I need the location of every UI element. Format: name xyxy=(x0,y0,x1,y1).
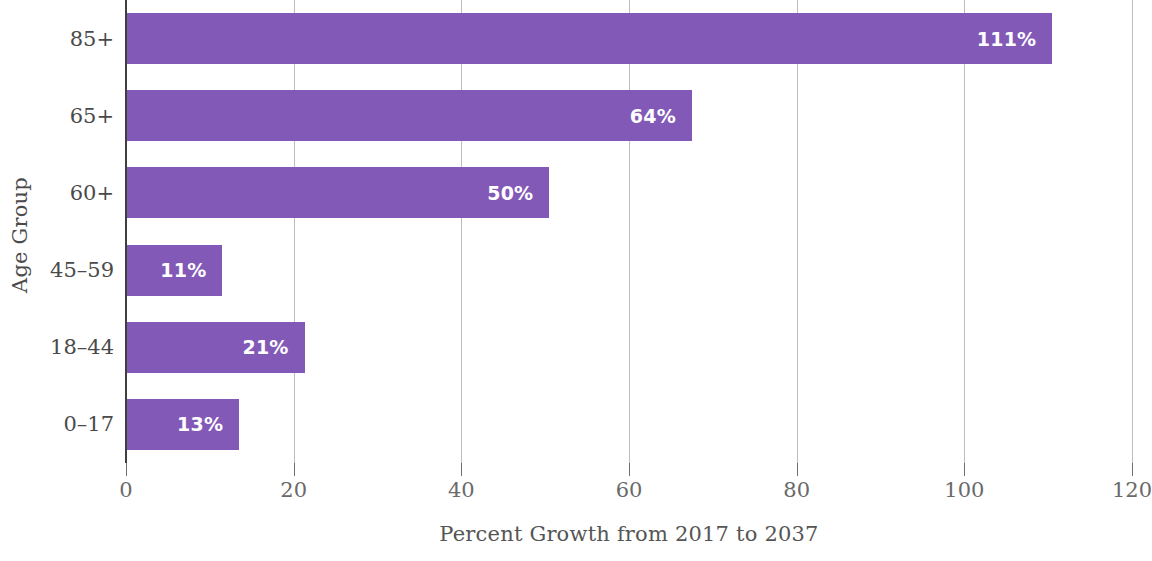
bar[interactable]: 13% xyxy=(126,399,239,450)
y-axis-title: Age Group xyxy=(0,0,40,470)
y-axis-line xyxy=(125,0,127,463)
bar[interactable]: 50% xyxy=(126,167,549,218)
x-axis-tick-label: 60 xyxy=(589,478,669,502)
x-axis-tick-mark xyxy=(461,463,462,476)
bar-value-label: 50% xyxy=(487,182,549,204)
bar-row: 50% xyxy=(126,167,1132,218)
bar[interactable]: 64% xyxy=(126,90,692,141)
bar-value-label: 111% xyxy=(977,28,1053,50)
y-axis-tick-label: 0–17 xyxy=(63,399,114,450)
x-axis-tick-label: 80 xyxy=(757,478,837,502)
bar[interactable]: 21% xyxy=(126,322,305,373)
y-axis-tick-label: 65+ xyxy=(70,90,114,141)
bar[interactable]: 111% xyxy=(126,13,1052,64)
y-axis-tick-label: 85+ xyxy=(70,13,114,64)
bar-row: 11% xyxy=(126,245,1132,296)
bar-value-label: 13% xyxy=(177,413,239,435)
y-axis-tick-label: 45–59 xyxy=(50,245,114,296)
bar-value-label: 64% xyxy=(630,105,692,127)
gridline xyxy=(629,0,630,463)
x-axis-tick-mark xyxy=(294,463,295,476)
bar-value-label: 11% xyxy=(160,259,222,281)
y-axis-tick-label: 60+ xyxy=(70,167,114,218)
x-axis-tick-label: 120 xyxy=(1092,478,1152,502)
x-axis-tick-mark xyxy=(126,463,127,476)
x-axis-tick-mark xyxy=(1132,463,1133,476)
x-axis-tick-mark xyxy=(964,463,965,476)
x-axis-tick-mark xyxy=(629,463,630,476)
plot-area: 111%64%50%11%21%13% xyxy=(126,0,1132,463)
bar-value-label: 21% xyxy=(242,336,304,358)
y-axis-title-text: Age Group xyxy=(8,177,32,293)
bar-row: 64% xyxy=(126,90,1132,141)
bar-chart: Age Group 85+65+60+45–5918–440–17 111%64… xyxy=(0,0,1152,561)
bar-row: 21% xyxy=(126,322,1132,373)
x-axis-tick-label: 0 xyxy=(86,478,166,502)
x-axis-tick-label: 40 xyxy=(421,478,501,502)
bar-row: 111% xyxy=(126,13,1132,64)
gridline xyxy=(797,0,798,463)
gridline xyxy=(294,0,295,463)
gridline xyxy=(461,0,462,463)
x-axis-title: Percent Growth from 2017 to 2037 xyxy=(126,522,1132,546)
bar[interactable]: 11% xyxy=(126,245,222,296)
bar-row: 13% xyxy=(126,399,1132,450)
x-axis-tick-mark xyxy=(797,463,798,476)
x-axis-tick-label: 100 xyxy=(924,478,1004,502)
y-axis-tick-label: 18–44 xyxy=(50,322,114,373)
gridline xyxy=(964,0,965,463)
x-axis-tick-label: 20 xyxy=(254,478,334,502)
gridline xyxy=(1132,0,1133,463)
